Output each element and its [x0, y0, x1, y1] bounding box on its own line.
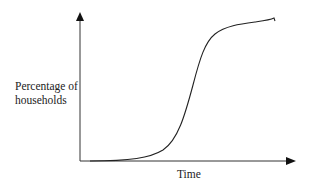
y-axis-label-line1: Percentage of — [15, 79, 85, 93]
y-axis-label: Percentage of households — [15, 79, 85, 107]
y-axis-arrow-icon — [76, 12, 84, 21]
x-axis-arrow-icon — [286, 157, 296, 165]
s-curve — [90, 18, 275, 161]
y-axis-label-line2: households — [15, 93, 85, 107]
x-axis-label: Time — [177, 168, 201, 180]
